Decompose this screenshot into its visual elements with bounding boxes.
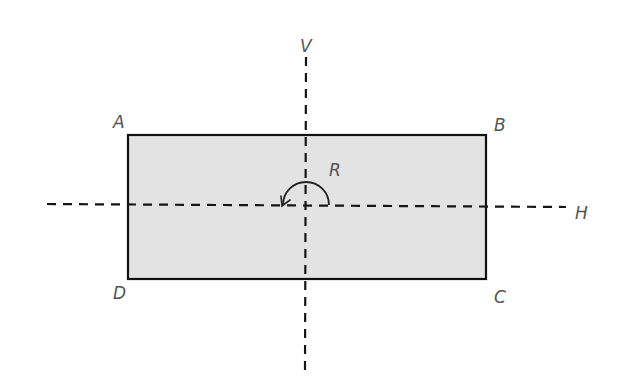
vertical-axis-label: V xyxy=(300,36,313,56)
vertex-label-a: A xyxy=(112,112,125,132)
vertex-label-c: C xyxy=(494,287,506,307)
vertex-label-b: B xyxy=(494,115,506,135)
horizontal-axis-label: H xyxy=(575,203,588,223)
vertex-label-d: D xyxy=(113,283,126,303)
horizontal-axis-line xyxy=(47,204,566,207)
diagram-canvas: V H R A B C D xyxy=(0,0,621,387)
rotation-label: R xyxy=(329,160,341,180)
